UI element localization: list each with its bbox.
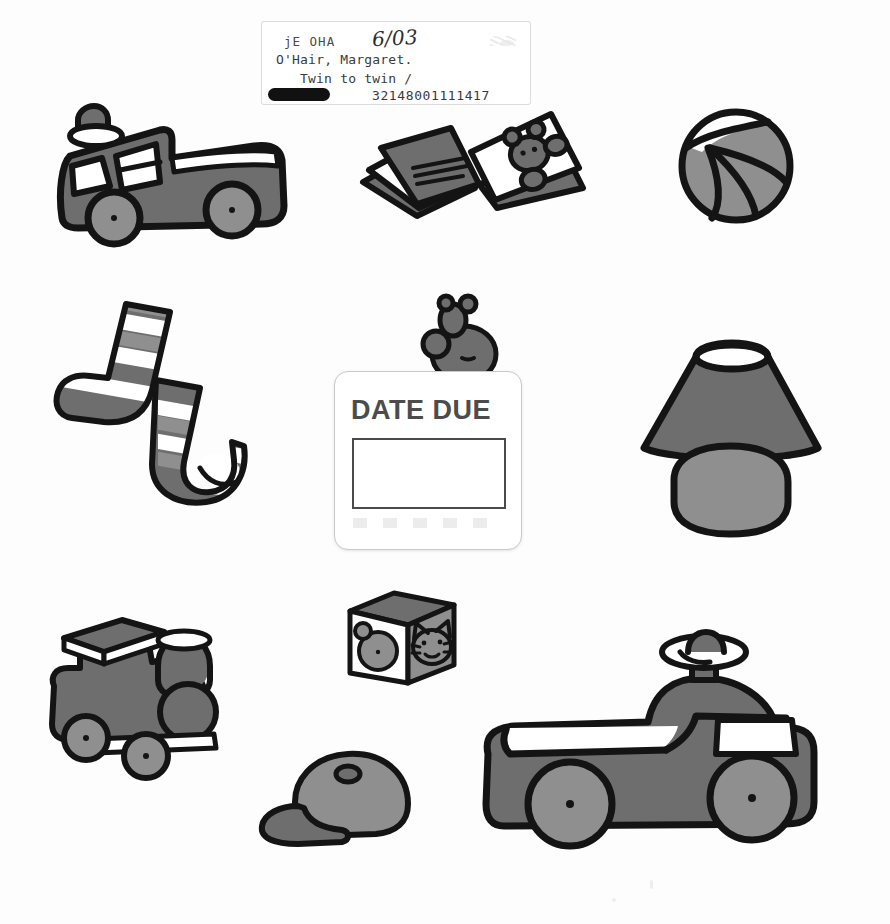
scan-artifact — [612, 898, 616, 902]
date-due-heading: DATE DUE — [351, 395, 491, 426]
date-due-entry-box — [352, 438, 506, 509]
illustration-alphabet-block — [342, 589, 462, 689]
label-date-stamp: 6/03 — [371, 25, 418, 51]
illustration-beach-ball — [672, 108, 802, 228]
illustration-baseball-cap — [258, 744, 418, 849]
label-call-number: jE OHA — [284, 34, 335, 49]
label-barcode-number: 32148001111417 — [372, 88, 490, 103]
illustration-striped-socks — [48, 294, 248, 514]
illustration-open-book — [355, 108, 595, 228]
scan-artifact — [650, 880, 653, 889]
book-cover-page: jE OHA 6/03 O'Hair, Margaret. Twin to tw… — [0, 0, 890, 924]
date-due-fine-print — [353, 518, 503, 528]
label-redaction-block — [268, 88, 330, 101]
illustration-fire-truck — [48, 100, 298, 250]
scan-artifact — [500, 40, 514, 46]
illustration-toy-train — [34, 614, 259, 779]
illustration-table-lamp — [630, 340, 830, 540]
illustration-ride-on-car — [476, 638, 821, 853]
library-spine-label: jE OHA 6/03 O'Hair, Margaret. Twin to tw… — [262, 22, 530, 104]
date-due-card: DATE DUE — [334, 371, 522, 550]
label-title: Twin to twin / — [300, 71, 412, 86]
label-author: O'Hair, Margaret. — [276, 52, 412, 67]
